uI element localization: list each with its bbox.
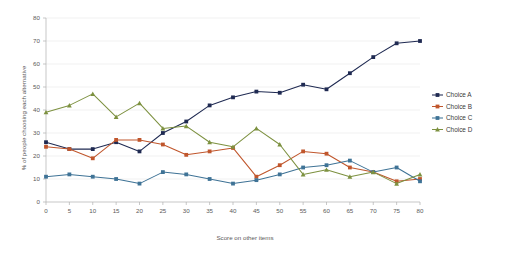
data-point — [161, 131, 165, 135]
data-point — [184, 120, 188, 124]
data-point — [91, 156, 95, 160]
data-point — [325, 152, 329, 156]
x-tick-label: 60 — [323, 207, 330, 214]
legend-label-choice-a: Choice A — [446, 91, 472, 98]
data-point — [184, 153, 188, 157]
x-tick-label: 40 — [230, 207, 237, 214]
data-point — [254, 90, 258, 94]
data-point — [161, 143, 165, 147]
legend-label-choice-b: Choice B — [446, 103, 472, 110]
data-point — [418, 39, 422, 43]
data-point — [231, 95, 235, 99]
data-point — [395, 41, 399, 45]
data-point — [301, 83, 305, 87]
legend-label-choice-c: Choice C — [446, 114, 473, 121]
x-tick-label: 30 — [183, 207, 190, 214]
x-tick-label: 70 — [370, 207, 377, 214]
data-point — [348, 166, 352, 170]
y-tick-label: 50 — [33, 83, 40, 90]
data-point — [44, 175, 48, 179]
data-point — [138, 138, 142, 142]
data-point — [67, 147, 71, 151]
data-point — [278, 173, 282, 177]
data-point — [348, 71, 352, 75]
legend-marker — [436, 93, 440, 97]
series-choice-a — [44, 39, 422, 153]
data-point — [161, 170, 165, 174]
data-series — [44, 39, 423, 186]
y-tick-label: 40 — [33, 106, 40, 113]
data-point — [254, 178, 258, 182]
y-tick-label: 0 — [37, 198, 41, 205]
data-point — [91, 175, 95, 179]
x-axis-tick-labels: 05101520253035404550556065707580 — [44, 202, 424, 214]
data-point — [114, 138, 118, 142]
legend-marker — [436, 116, 440, 120]
series-line — [46, 161, 420, 184]
data-point — [371, 55, 375, 59]
series-choice-d — [44, 92, 423, 186]
x-tick-label: 45 — [253, 207, 260, 214]
x-tick-label: 20 — [136, 207, 143, 214]
x-tick-label: 55 — [300, 207, 307, 214]
y-axis-tick-labels: 01020304050607080 — [33, 14, 46, 205]
data-point — [208, 104, 212, 108]
x-tick-label: 80 — [417, 207, 424, 214]
data-point — [208, 177, 212, 181]
data-point — [208, 150, 212, 154]
x-tick-label: 25 — [159, 207, 166, 214]
x-tick-label: 15 — [113, 207, 120, 214]
y-tick-label: 60 — [33, 60, 40, 67]
data-point — [44, 145, 48, 149]
data-point — [184, 173, 188, 177]
line-chart: 05101520253035404550556065707580 0102030… — [0, 0, 506, 253]
x-tick-label: 5 — [68, 207, 72, 214]
data-point — [90, 92, 95, 96]
y-tick-label: 70 — [33, 37, 40, 44]
y-tick-label: 80 — [33, 14, 40, 21]
data-point — [418, 172, 423, 176]
data-point — [137, 101, 142, 105]
y-tick-label: 20 — [33, 152, 40, 159]
data-point — [91, 147, 95, 151]
series-choice-c — [44, 159, 422, 186]
data-point — [138, 182, 142, 186]
chart-canvas: 05101520253035404550556065707580 0102030… — [0, 0, 506, 253]
x-tick-label: 0 — [44, 207, 48, 214]
x-tick-label: 75 — [393, 207, 400, 214]
x-tick-label: 35 — [206, 207, 213, 214]
data-point — [114, 177, 118, 181]
data-point — [254, 126, 259, 130]
x-axis-title: Score on other items — [216, 234, 273, 241]
data-point — [254, 175, 258, 179]
data-point — [325, 87, 329, 91]
data-point — [301, 166, 305, 170]
data-point — [44, 140, 48, 144]
data-point — [301, 150, 305, 154]
data-point — [278, 91, 282, 95]
data-point — [67, 103, 72, 107]
x-tick-label: 50 — [276, 207, 283, 214]
x-tick-label: 10 — [89, 207, 96, 214]
data-point — [278, 163, 282, 167]
legend-marker — [436, 105, 440, 109]
y-tick-label: 10 — [33, 175, 40, 182]
y-axis-title: % of people choosing each alternative — [20, 65, 27, 170]
x-tick-label: 65 — [346, 207, 353, 214]
legend-label-choice-d: Choice D — [446, 126, 473, 133]
data-point — [325, 163, 329, 167]
data-point — [231, 182, 235, 186]
data-point — [348, 159, 352, 163]
data-point — [138, 150, 142, 154]
data-point — [418, 179, 422, 183]
data-point — [67, 173, 71, 177]
data-point — [395, 166, 399, 170]
y-tick-label: 30 — [33, 129, 40, 136]
legend: Choice AChoice BChoice CChoice D — [432, 91, 473, 133]
